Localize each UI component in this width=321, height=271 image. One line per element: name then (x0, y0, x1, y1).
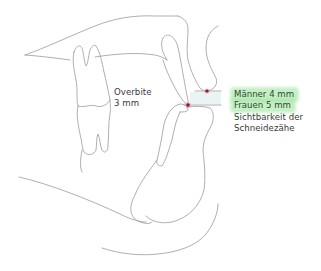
overbite-label: Overbite 3 mm (114, 87, 152, 108)
lower-molar (77, 100, 110, 154)
women-value-label: Frauen 5 mm (232, 100, 294, 111)
upper-lip-marker-dot (205, 89, 208, 92)
palate-outline (25, 16, 178, 55)
lower-lip (146, 106, 213, 222)
dental-profile-drawing (0, 0, 321, 271)
palate-lower-line (25, 55, 70, 60)
mandible-base (19, 177, 146, 222)
mandible-lower (102, 204, 218, 255)
visibility-caption-line1: Sichtbarkeit der (234, 112, 303, 123)
upper-molar (73, 45, 110, 106)
overbite-label-value: 3 mm (114, 98, 152, 109)
visibility-caption-line2: Schneidezähe (234, 123, 303, 134)
overbite-label-title: Overbite (114, 87, 152, 98)
men-value-label: Männer 4 mm (232, 89, 297, 100)
upper-lip (178, 16, 208, 91)
maxilla-line (95, 54, 167, 60)
mandible-inner (131, 160, 157, 224)
upper-incisor (162, 35, 188, 108)
left-lower-root (81, 150, 83, 172)
visibility-gap (190, 92, 221, 104)
upper-lip-outer (206, 26, 218, 91)
lower-incisor (157, 104, 188, 166)
incisal-edge-marker-dot (186, 103, 189, 106)
visibility-caption: Sichtbarkeit der Schneidezähe (234, 112, 303, 133)
diagram-canvas: Overbite 3 mm Männer 4 mm Frauen 5 mm Si… (0, 0, 321, 271)
visibility-values: Männer 4 mm Frauen 5 mm (234, 89, 297, 111)
upper-incisor-back (163, 60, 186, 104)
